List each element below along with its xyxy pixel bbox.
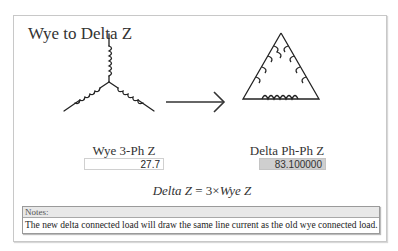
wye-to-delta-panel: Wye to Delta Z (13, 15, 387, 242)
delta-label: Delta Ph-Ph Z (232, 143, 342, 159)
notes-box: Notes: The new delta connected load will… (22, 206, 380, 234)
notes-header: Notes: (23, 207, 379, 218)
delta-circuit-icon (243, 33, 319, 99)
wye-impedance-input[interactable]: 27.7 (84, 158, 164, 170)
wye-label: Wye 3-Ph Z (74, 143, 174, 159)
delta-impedance-output: 83.100000 (259, 158, 326, 170)
right-arrow-icon (166, 92, 224, 112)
wye-circuit-icon (64, 34, 154, 111)
formula-rhs: Wye Z (220, 183, 252, 198)
circuit-diagram (14, 16, 386, 156)
conversion-formula: Delta Z = 3×Wye Z (132, 183, 272, 199)
formula-eq: = 3× (192, 183, 220, 198)
notes-text: The new delta connected load will draw t… (23, 218, 379, 232)
formula-lhs: Delta Z (153, 183, 192, 198)
